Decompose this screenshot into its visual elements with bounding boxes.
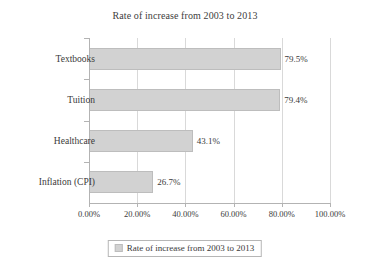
category-label: Tuition — [0, 95, 95, 105]
x-tick-label: 80.00% — [269, 209, 295, 219]
x-tick-label: 0.00% — [78, 209, 100, 219]
bar-value-label: 43.1% — [193, 136, 220, 146]
legend-label: Rate of increase from 2003 to 2013 — [127, 243, 254, 253]
x-tick-label: 100.00% — [315, 209, 345, 219]
category-label: Healthcare — [0, 136, 95, 146]
chart-legend: Rate of increase from 2003 to 2013 — [108, 240, 262, 257]
plot-area: 79.5%79.4%43.1%26.7% — [89, 38, 330, 203]
bar[interactable] — [89, 130, 193, 152]
bar-value-label: 79.4% — [280, 95, 307, 105]
y-tick — [84, 38, 89, 39]
bar-row[interactable]: 43.1% — [89, 130, 330, 152]
x-axis-line — [89, 203, 331, 204]
legend-swatch-icon — [115, 244, 123, 252]
y-tick — [84, 162, 89, 163]
bar-row[interactable]: 79.4% — [89, 89, 330, 111]
x-tick — [330, 203, 331, 207]
bar[interactable] — [89, 89, 280, 111]
category-label: Inflation (CPI) — [0, 177, 95, 187]
x-tick — [137, 203, 138, 207]
x-tick-label: 20.00% — [124, 209, 150, 219]
bar-row[interactable]: 26.7% — [89, 171, 330, 193]
bar-chart: Rate of increase from 2003 to 2013 79.5%… — [0, 0, 370, 270]
x-tick — [234, 203, 235, 207]
bar-row[interactable]: 79.5% — [89, 48, 330, 70]
y-tick — [84, 79, 89, 80]
x-tick — [185, 203, 186, 207]
gridline — [330, 38, 331, 203]
bar[interactable] — [89, 48, 281, 70]
x-tick — [282, 203, 283, 207]
category-label: Textbooks — [0, 54, 95, 64]
bar-value-label: 79.5% — [281, 54, 308, 64]
bar-value-label: 26.7% — [153, 177, 180, 187]
x-tick-label: 60.00% — [220, 209, 246, 219]
bar[interactable] — [89, 171, 153, 193]
y-tick — [84, 121, 89, 122]
x-tick — [89, 203, 90, 207]
chart-title: Rate of increase from 2003 to 2013 — [0, 10, 370, 21]
x-tick-label: 40.00% — [172, 209, 198, 219]
